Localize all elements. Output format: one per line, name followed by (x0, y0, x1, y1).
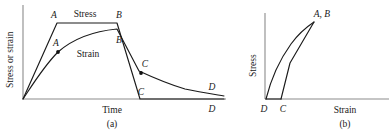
panel-a-group: Stress or strain Time Stress Strain A A … (5, 5, 226, 130)
panel-b-label-d: D (260, 104, 268, 114)
panel-a-label-a-stress: A (50, 10, 57, 20)
panel-a-stress-curve (23, 23, 224, 99)
figure-container: Stress or strain Time Stress Strain A A … (0, 0, 389, 135)
panel-b-label-c: C (280, 104, 287, 114)
panel-a-label-c-strain: C (142, 59, 149, 69)
panel-a-strain-series-label: Strain (77, 49, 100, 59)
panel-a-caption: (a) (107, 119, 118, 130)
panel-b-y-axis-label: Stress (248, 54, 258, 77)
panel-a-label-a-strain: A (52, 38, 59, 48)
panel-a-label-b-strain: B (116, 35, 122, 45)
panel-a-label-c-stress: C (138, 87, 145, 97)
panel-b-caption: (b) (339, 119, 350, 130)
panel-a-point-a-marker (56, 50, 60, 54)
panel-a-point-c-marker (139, 71, 143, 75)
figure-svg: Stress or strain Time Stress Strain A A … (0, 0, 389, 135)
panel-a-y-axis-label: Stress or strain (5, 31, 15, 88)
panel-b-group: Stress Strain A, B D C (b) (248, 9, 389, 130)
panel-a-stress-series-label: Stress (74, 9, 97, 19)
panel-b-x-axis-label: Strain (334, 105, 357, 115)
panel-a-label-b-stress: B (116, 10, 122, 20)
panel-b-unloading-curve (281, 22, 314, 99)
panel-a-label-d-strain: D (208, 82, 216, 92)
panel-a-x-axis-label: Time (102, 105, 122, 115)
panel-a-label-d-stress: D (208, 104, 216, 114)
panel-b-label-ab: A, B (313, 9, 331, 19)
